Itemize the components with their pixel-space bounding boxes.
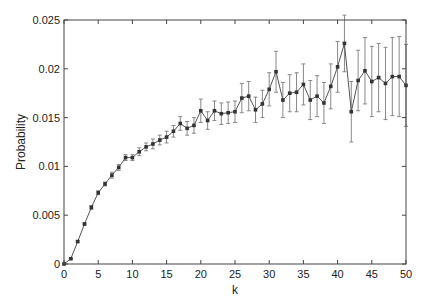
data-point (261, 102, 265, 106)
y-tick-label: 0.015 (32, 112, 60, 124)
data-point (254, 108, 258, 112)
data-point (103, 182, 107, 186)
data-point (274, 70, 278, 74)
data-point (363, 69, 367, 73)
data-point (336, 65, 340, 69)
data-point (240, 96, 244, 100)
data-point (76, 240, 80, 244)
data-point (151, 142, 155, 146)
data-point (267, 87, 271, 91)
data-point (69, 257, 73, 261)
data-point (206, 119, 210, 123)
data-point (356, 79, 360, 83)
data-point (281, 98, 285, 102)
x-axis-ticks: 05101520253035404550 (61, 20, 412, 280)
x-tick-label: 15 (160, 268, 172, 280)
data-point (137, 150, 141, 154)
data-point (384, 82, 388, 86)
x-tick-label: 50 (400, 268, 412, 280)
data-point (226, 111, 230, 115)
y-tick-label: 0.01 (39, 160, 60, 172)
y-tick-label: 0.025 (32, 14, 60, 26)
data-point (315, 94, 319, 98)
data-point (117, 166, 121, 170)
x-tick-label: 20 (195, 268, 207, 280)
data-point (302, 83, 306, 87)
data-point (90, 206, 94, 210)
data-point (329, 85, 333, 89)
data-point (144, 145, 148, 149)
data-point (192, 124, 196, 128)
data-line (64, 43, 406, 264)
data-point (131, 156, 135, 160)
data-point (308, 98, 312, 102)
y-tick-label: 0.02 (39, 63, 60, 75)
y-axis-label: Probability (14, 114, 28, 170)
data-point (220, 112, 224, 116)
data-point (377, 76, 381, 80)
error-bars (69, 15, 408, 259)
data-point (178, 122, 182, 126)
x-tick-label: 5 (95, 268, 101, 280)
x-axis-label: k (232, 283, 239, 297)
data-point (124, 156, 128, 160)
x-tick-label: 30 (263, 268, 275, 280)
data-point (397, 75, 401, 79)
data-point (199, 109, 203, 113)
data-point (165, 135, 169, 139)
data-point (288, 91, 292, 95)
data-point (83, 222, 87, 226)
data-point (370, 80, 374, 84)
probability-chart: 05101520253035404550 00.0050.010.0150.02… (0, 0, 429, 304)
x-tick-label: 45 (366, 268, 378, 280)
x-tick-label: 25 (229, 268, 241, 280)
data-point (172, 129, 176, 133)
data-point (295, 90, 299, 94)
x-tick-label: 10 (126, 268, 138, 280)
data-point (185, 127, 189, 131)
data-point (343, 42, 347, 46)
x-tick-label: 0 (61, 268, 67, 280)
data-point (213, 109, 217, 113)
y-tick-label: 0.005 (32, 209, 60, 221)
x-tick-label: 35 (297, 268, 309, 280)
data-point (247, 94, 251, 98)
data-markers (62, 42, 408, 266)
data-point (96, 191, 100, 195)
data-point (322, 101, 326, 105)
data-point (110, 173, 114, 177)
data-point (158, 138, 162, 142)
x-tick-label: 40 (331, 268, 343, 280)
y-tick-label: 0 (54, 258, 60, 270)
data-point (233, 110, 237, 114)
plot-frame (64, 20, 406, 264)
data-point (349, 110, 353, 114)
data-point (391, 75, 395, 79)
